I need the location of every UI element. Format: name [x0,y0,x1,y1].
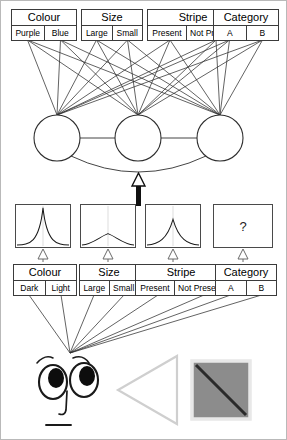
eyebrow-right [73,357,89,363]
eyebrow-left [37,357,53,363]
diagram-canvas: Colour Purple Blue Size Large Small Stri… [0,0,287,440]
stimulus-scene [1,1,287,440]
pupil-left [48,368,64,388]
triangle-shape [118,356,177,424]
pupil-right [79,366,95,386]
textured-square [192,361,250,419]
observer-face [37,357,98,425]
